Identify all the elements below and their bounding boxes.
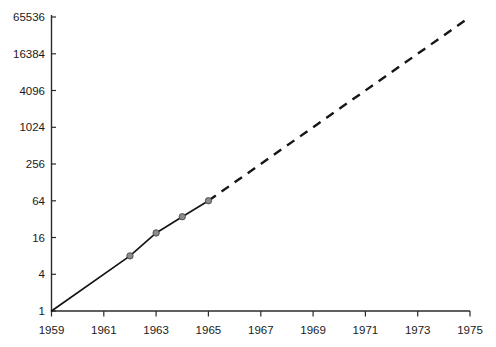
x-tick-label: 1973 [405,324,431,336]
y-tick-label: 64 [32,195,45,207]
x-tick-label: 1975 [457,324,483,336]
y-tick-label: 1 [39,305,45,317]
x-axis-tick-labels: 1959 1961 1963 1965 1967 1969 1971 1973 … [39,324,483,336]
data-point-marker [205,198,211,204]
data-point-marker [153,230,159,236]
y-tick-label: 16 [32,232,45,244]
x-tick-label: 1967 [248,324,274,336]
x-tick-label: 1961 [91,324,117,336]
y-tick-label: 4 [39,268,46,280]
data-point-marker [127,253,133,259]
y-tick-label: 256 [26,158,45,170]
x-tick-label: 1963 [143,324,169,336]
data-point-marker [179,214,185,220]
log-line-chart: 65536 16384 4096 1024 256 64 16 4 1 1959… [0,0,496,347]
x-tick-label: 1965 [196,324,222,336]
y-tick-label: 16384 [13,48,46,60]
x-axis-ticks [52,311,471,317]
y-tick-label: 65536 [13,11,45,23]
y-tick-label: 1024 [19,121,45,133]
x-tick-label: 1959 [39,324,65,336]
chart-container: 65536 16384 4096 1024 256 64 16 4 1 1959… [0,0,496,347]
x-tick-label: 1971 [353,324,379,336]
data-series-layer [52,17,471,311]
y-axis-tick-labels: 65536 16384 4096 1024 256 64 16 4 1 [13,11,46,317]
y-tick-label: 4096 [19,85,45,97]
x-tick-label: 1969 [300,324,326,336]
series-line-extrapolated [208,17,470,201]
